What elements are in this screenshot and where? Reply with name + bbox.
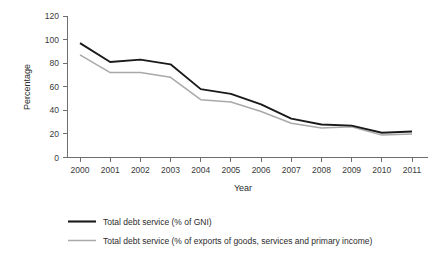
- y-tick-label: 40: [50, 105, 60, 115]
- x-axis-ticks: [80, 158, 412, 163]
- series-line-exports: [80, 55, 412, 135]
- y-axis-title: Percentage: [22, 64, 32, 110]
- y-tick-label: 20: [50, 129, 60, 139]
- x-tick-label: 2007: [282, 165, 301, 175]
- plot-area: 020406080100120 200020012002200320042005…: [0, 0, 446, 260]
- x-tick-label: 2009: [342, 165, 361, 175]
- x-tick-label: 2001: [101, 165, 120, 175]
- x-tick-label: 2011: [403, 165, 422, 175]
- y-tick-label: 120: [45, 11, 59, 21]
- y-axis-tick-labels: 020406080100120: [45, 11, 59, 163]
- x-axis-title: Year: [234, 183, 252, 193]
- y-tick-label: 100: [45, 35, 59, 45]
- x-tick-label: 2010: [372, 165, 391, 175]
- x-tick-label: 2003: [161, 165, 180, 175]
- x-tick-label: 2006: [252, 165, 271, 175]
- y-axis-ticks: [63, 16, 68, 158]
- x-tick-label: 2002: [131, 165, 150, 175]
- x-tick-label: 2008: [312, 165, 331, 175]
- line-chart-canvas: 020406080100120 200020012002200320042005…: [0, 0, 446, 260]
- chart-legend: Total debt service (% of GNI) Total debt…: [68, 217, 372, 246]
- y-tick-label: 0: [54, 153, 59, 163]
- series-line-gni: [80, 43, 412, 133]
- x-tick-label: 2004: [191, 165, 210, 175]
- x-tick-label: 2000: [71, 165, 90, 175]
- y-tick-label: 60: [50, 82, 60, 92]
- legend-label-primary: Total debt service (% of GNI): [103, 217, 212, 227]
- y-tick-label: 80: [50, 58, 60, 68]
- x-tick-label: 2005: [221, 165, 240, 175]
- chart-figure: 020406080100120 200020012002200320042005…: [0, 0, 446, 260]
- legend-label-secondary: Total debt service (% of exports of good…: [103, 236, 372, 246]
- x-axis-tick-labels: 2000200120022003200420052006200720082009…: [71, 165, 422, 175]
- data-series-group: [80, 43, 412, 135]
